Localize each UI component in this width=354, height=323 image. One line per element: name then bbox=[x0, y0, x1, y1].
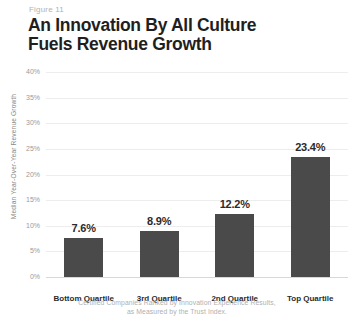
bar-series: 7.6%Bottom Quartile8.9%3rd Quartile12.2%… bbox=[46, 72, 348, 277]
chart-title: An Innovation By All Culture Fuels Reven… bbox=[28, 16, 328, 54]
bar[interactable] bbox=[291, 157, 330, 277]
figure-container: Figure 11 An Innovation By All Culture F… bbox=[0, 0, 354, 323]
bar-group: 7.6%Bottom Quartile bbox=[64, 72, 103, 277]
bar-value-label: 12.2% bbox=[203, 198, 266, 210]
y-axis-tick-label: 35% bbox=[26, 94, 40, 101]
bar-value-label: 8.9% bbox=[128, 215, 191, 227]
figure-number: Figure 11 bbox=[29, 4, 64, 15]
bar-group: 23.4%Top Quartile bbox=[291, 72, 330, 277]
bar[interactable] bbox=[64, 238, 103, 277]
bar-value-label: 23.4% bbox=[279, 141, 342, 153]
bar-group: 8.9%3rd Quartile bbox=[140, 72, 179, 277]
y-axis-tick-label: 0% bbox=[30, 273, 40, 280]
y-axis-tick-label: 15% bbox=[26, 196, 40, 203]
y-axis-tick-label: 30% bbox=[26, 119, 40, 126]
y-axis-tick-label: 40% bbox=[26, 68, 40, 75]
y-axis-tick-label: 25% bbox=[26, 145, 40, 152]
bar-value-label: 7.6% bbox=[52, 222, 115, 234]
chart-title-line-1: An Innovation By All Culture bbox=[28, 16, 328, 35]
plot-region: Median Year-Over-Year Revenue Growth 0%5… bbox=[0, 60, 354, 323]
gridline: 0% bbox=[46, 277, 348, 278]
chart-caption-line-1: Certified Companies Ranked by Innovation… bbox=[0, 298, 354, 307]
y-axis-title: Median Year-Over-Year Revenue Growth bbox=[10, 69, 17, 244]
y-axis-tick-label: 20% bbox=[26, 171, 40, 178]
y-axis-tick-label: 10% bbox=[26, 222, 40, 229]
bar[interactable] bbox=[140, 231, 179, 277]
y-axis-tick-label: 5% bbox=[30, 247, 40, 254]
chart-caption: Certified Companies Ranked by Innovation… bbox=[0, 298, 354, 316]
bar-group: 12.2%2nd Quartile bbox=[215, 72, 254, 277]
chart-title-line-2: Fuels Revenue Growth bbox=[28, 35, 328, 54]
bar[interactable] bbox=[215, 214, 254, 277]
chart-caption-line-2: as Measured by the Trust Index. bbox=[0, 307, 354, 316]
